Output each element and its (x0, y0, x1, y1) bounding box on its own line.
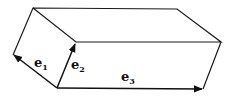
parallelepiped-diagram: e1 e2 e3 (0, 0, 233, 98)
label-e2: e2 (71, 57, 85, 74)
label-e1: e1 (34, 55, 48, 72)
label-e3: e3 (121, 69, 135, 86)
top-face-edges (13, 8, 221, 55)
vector-e3-arrow (57, 88, 202, 89)
front-right-edge (203, 42, 221, 89)
